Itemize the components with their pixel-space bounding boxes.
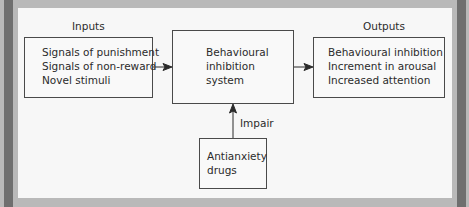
arrows-layer	[0, 0, 469, 207]
